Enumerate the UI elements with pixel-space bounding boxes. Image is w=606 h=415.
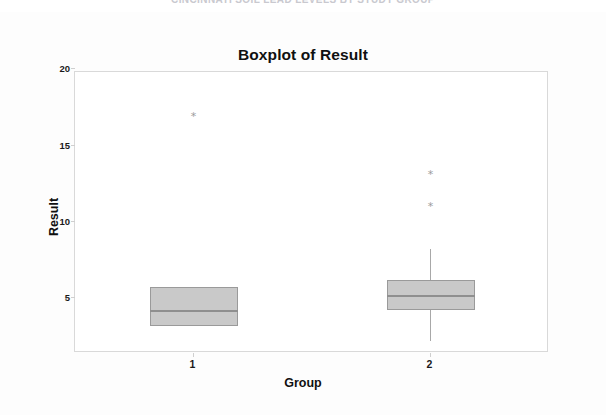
x-axis-tick-mark — [193, 353, 194, 357]
whisker-lower — [430, 310, 431, 341]
x-axis-tick-label: 2 — [400, 358, 460, 370]
boxplot-median-line — [387, 295, 475, 297]
clipped-header-text: CINCINNATI SOIL LEAD LEVELS BY STUDY GRO… — [0, 0, 606, 5]
y-axis-tick-mark — [71, 297, 75, 298]
y-axis-tick-mark — [71, 221, 75, 222]
boxplot-box — [150, 287, 238, 325]
boxplot-figure: Boxplot of Result Result 5101520 *** Gro… — [0, 12, 606, 415]
chart-title: Boxplot of Result — [0, 46, 606, 64]
y-axis-tick-mark — [71, 68, 75, 69]
x-axis-tick-label: 1 — [163, 358, 223, 370]
boxplot-median-line — [150, 310, 238, 312]
y-axis-tick-labels: 5101520 — [38, 12, 70, 415]
y-axis-tick-label: 15 — [40, 139, 70, 150]
outlier-marker: * — [426, 202, 435, 211]
plot-area: *** — [74, 71, 548, 352]
clipped-page-header: CINCINNATI SOIL LEAD LEVELS BY STUDY GRO… — [0, 0, 606, 10]
whisker-upper — [430, 249, 431, 280]
x-axis-label: Group — [0, 376, 606, 390]
x-axis-tick-mark — [430, 353, 431, 357]
plot-inner: *** — [75, 72, 547, 351]
y-axis-tick-mark — [71, 145, 75, 146]
outlier-marker: * — [189, 112, 198, 121]
outlier-marker: * — [426, 170, 435, 179]
y-axis-tick-label: 10 — [40, 215, 70, 226]
y-axis-tick-label: 5 — [40, 292, 70, 303]
y-axis-tick-label: 20 — [40, 63, 70, 74]
